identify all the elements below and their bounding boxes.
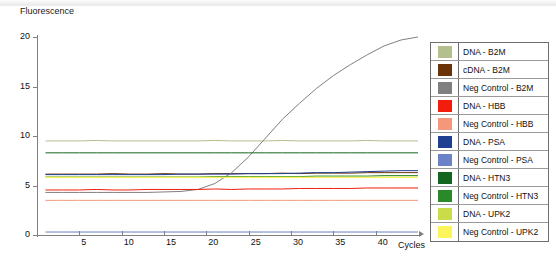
legend-item[interactable]: cDNA - B2M bbox=[431, 61, 548, 79]
legend-item[interactable]: DNA - B2M bbox=[431, 43, 548, 61]
legend-swatch-cell bbox=[431, 61, 459, 78]
legend-item[interactable]: DNA - HBB bbox=[431, 97, 548, 115]
legend-swatch-cell bbox=[431, 79, 459, 96]
legend-swatch-cell bbox=[431, 43, 459, 60]
series-line bbox=[45, 188, 418, 190]
legend-color-swatch bbox=[438, 82, 452, 94]
legend-item-label: Neg Control - B2M bbox=[459, 79, 548, 96]
legend-item-label: Neg Control - HTN3 bbox=[459, 187, 548, 204]
legend-item-label: DNA - PSA bbox=[459, 133, 548, 150]
legend-item[interactable]: Neg Control - PSA bbox=[431, 151, 548, 169]
legend-swatch-cell bbox=[431, 169, 459, 186]
legend-item[interactable]: DNA - HTN3 bbox=[431, 169, 548, 187]
legend-item-label: Neg Control - PSA bbox=[459, 151, 548, 168]
legend-color-swatch bbox=[438, 118, 452, 130]
legend-color-swatch bbox=[438, 46, 452, 58]
series-line bbox=[45, 140, 418, 141]
chart-legend: DNA - B2McDNA - B2MNeg Control - B2MDNA … bbox=[430, 42, 549, 242]
legend-item-label: DNA - UPK2 bbox=[459, 205, 548, 222]
legend-swatch-cell bbox=[431, 223, 459, 241]
legend-swatch-cell bbox=[431, 187, 459, 204]
series-line bbox=[45, 37, 418, 192]
legend-color-swatch bbox=[438, 226, 452, 238]
legend-swatch-cell bbox=[431, 151, 459, 168]
legend-swatch-cell bbox=[431, 205, 459, 222]
chart-area: Fluorescence 20151050 510152025303540 Cy… bbox=[0, 0, 430, 270]
legend-color-swatch bbox=[438, 172, 452, 184]
legend-color-swatch bbox=[438, 154, 452, 166]
legend-color-swatch bbox=[438, 190, 452, 202]
legend-color-swatch bbox=[438, 136, 452, 148]
legend-item[interactable]: Neg Control - UPK2 bbox=[431, 223, 548, 241]
legend-color-swatch bbox=[438, 208, 452, 220]
legend-item[interactable]: Neg Control - HBB bbox=[431, 115, 548, 133]
legend-color-swatch bbox=[438, 100, 452, 112]
legend-swatch-cell bbox=[431, 97, 459, 114]
legend-item[interactable]: DNA - UPK2 bbox=[431, 205, 548, 223]
legend-item-label: DNA - HTN3 bbox=[459, 169, 548, 186]
plot-lines bbox=[0, 0, 430, 270]
legend-item-label: Neg Control - UPK2 bbox=[459, 223, 548, 241]
legend-swatch-cell bbox=[431, 133, 459, 150]
legend-item[interactable]: Neg Control - B2M bbox=[431, 79, 548, 97]
legend-swatch-cell bbox=[431, 115, 459, 132]
legend-item[interactable]: DNA - PSA bbox=[431, 133, 548, 151]
legend-item-label: DNA - B2M bbox=[459, 43, 548, 60]
legend-item[interactable]: Neg Control - HTN3 bbox=[431, 187, 548, 205]
legend-item-label: DNA - HBB bbox=[459, 97, 548, 114]
legend-color-swatch bbox=[438, 64, 452, 76]
legend-item-label: cDNA - B2M bbox=[459, 61, 548, 78]
legend-item-label: Neg Control - HBB bbox=[459, 115, 548, 132]
